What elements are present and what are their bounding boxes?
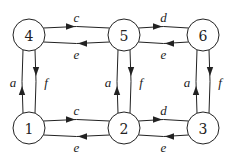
edge-label: c bbox=[74, 10, 80, 25]
edge-5-to-2: f bbox=[128, 50, 145, 113]
edge-2-to-5: a bbox=[105, 50, 120, 113]
node-label: 1 bbox=[25, 121, 34, 137]
edge-5-to-6: d bbox=[138, 10, 188, 30]
node-label: 6 bbox=[199, 28, 208, 44]
arrowhead-icon bbox=[207, 67, 213, 76]
edge-line bbox=[138, 135, 188, 137]
edge-line bbox=[138, 42, 188, 44]
arrowhead-icon bbox=[33, 67, 39, 76]
edge-1-to-2: c bbox=[43, 103, 109, 123]
edge-label: a bbox=[10, 75, 17, 90]
edge-3-to-6: a bbox=[184, 50, 199, 113]
node-label: 2 bbox=[120, 121, 129, 137]
edge-5-to-4: e bbox=[43, 40, 109, 61]
edge-1-to-4: a bbox=[10, 50, 25, 113]
edge-label: f bbox=[139, 75, 145, 90]
edge-label: f bbox=[44, 75, 50, 90]
arrowhead-icon bbox=[193, 86, 199, 95]
node-label: 5 bbox=[120, 28, 129, 44]
edge-6-to-5: e bbox=[138, 40, 188, 61]
edge-line bbox=[43, 120, 109, 122]
edge-label: a bbox=[184, 75, 191, 90]
node-1: 1 bbox=[13, 112, 45, 144]
edge-line bbox=[138, 120, 188, 122]
node-3: 3 bbox=[187, 112, 219, 144]
edge-label: d bbox=[160, 10, 167, 25]
edge-line bbox=[117, 50, 118, 113]
edge-6-to-3: f bbox=[207, 50, 224, 113]
edge-2-to-3: d bbox=[138, 103, 188, 123]
edge-label: e bbox=[161, 140, 167, 155]
edge-2-to-1: e bbox=[43, 133, 109, 154]
edge-label: d bbox=[160, 103, 167, 118]
edge-label: f bbox=[218, 75, 224, 90]
arrowhead-icon bbox=[114, 86, 120, 95]
node-6: 6 bbox=[187, 19, 219, 51]
edge-4-to-5: c bbox=[43, 10, 109, 30]
edge-line bbox=[35, 50, 36, 113]
arrowhead-icon bbox=[19, 86, 25, 95]
edge-label: e bbox=[161, 47, 167, 62]
edge-line bbox=[130, 50, 131, 113]
edge-line bbox=[22, 50, 23, 113]
edge-label: a bbox=[105, 75, 112, 90]
edge-4-to-1: f bbox=[33, 50, 50, 113]
node-label: 3 bbox=[199, 121, 208, 137]
node-2: 2 bbox=[108, 112, 140, 144]
edge-line bbox=[196, 50, 197, 113]
edge-label: c bbox=[74, 103, 80, 118]
edge-line bbox=[209, 50, 210, 113]
edge-3-to-2: e bbox=[138, 133, 188, 154]
edge-label: e bbox=[74, 47, 80, 62]
edge-line bbox=[138, 27, 188, 29]
state-graph: cedecedeafafaf 123456 bbox=[0, 0, 248, 160]
node-4: 4 bbox=[13, 19, 45, 51]
edge-line bbox=[43, 135, 109, 137]
edge-label: e bbox=[74, 140, 80, 155]
arrowhead-icon bbox=[128, 67, 134, 76]
edge-line bbox=[43, 42, 109, 44]
node-5: 5 bbox=[108, 19, 140, 51]
node-label: 4 bbox=[25, 28, 34, 44]
edge-line bbox=[43, 27, 109, 29]
